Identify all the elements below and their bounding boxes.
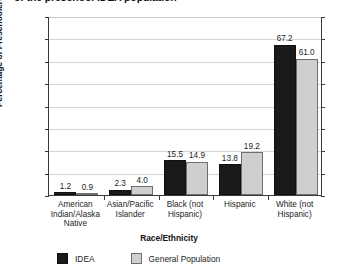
legend-swatch-idea [57,253,68,264]
y-axis-tick-mark-right [321,129,325,130]
bar [274,45,296,195]
y-axis-tick-mark [45,39,49,40]
bar-value-label: 1.2 [60,182,71,191]
bar [219,164,241,195]
y-axis-tick-mark [45,129,49,130]
y-axis-tick-mark [45,84,49,85]
y-axis-tick-mark-right [321,196,325,197]
bar [296,59,318,195]
legend-swatch-general-population [131,253,142,264]
plot-area: 01020304050607080 1.20.92.34.015.514.913… [48,17,322,196]
y-axis-tick-mark [45,107,49,108]
y-axis-tick-mark-right [321,174,325,175]
x-axis-category-label: White (notHispanic) [258,200,331,219]
y-axis-tick-mark [45,17,49,18]
bar-value-label: 61.0 [299,48,315,57]
bar-value-label: 15.5 [167,150,183,159]
gridline [49,17,321,18]
y-axis-tick-mark [45,151,49,152]
bar [241,152,263,195]
bar-value-label: 13.8 [222,154,238,163]
bar-value-label: 2.3 [114,179,125,188]
bar [54,192,76,195]
bar [186,162,208,195]
legend-label-idea: IDEA [75,254,95,264]
bar [164,160,186,195]
bar-value-label: 4.0 [136,176,147,185]
y-axis-title: Percentage of Preschoolers [0,0,4,107]
x-axis-title: Race/Ethnicity [0,233,338,243]
chart-title: of the preschool IDEA population [14,0,314,3]
legend-item-general-population: General Population [131,253,221,264]
y-axis-tick-mark-right [321,84,325,85]
y-axis-tick-mark [45,174,49,175]
bar-value-label: 19.2 [244,142,260,151]
legend: IDEA General Population [57,253,220,264]
y-axis-tick-mark [45,62,49,63]
y-axis-tick-mark-right [321,151,325,152]
y-axis-tick-mark [45,196,49,197]
legend-label-general-population: General Population [149,254,221,264]
y-axis-tick-mark-right [321,17,325,18]
bar [76,193,98,195]
legend-item-idea: IDEA [57,253,95,264]
bar-value-label: 14.9 [189,151,205,160]
bar-value-label: 67.2 [277,34,293,43]
bar-value-label: 0.9 [82,183,93,192]
y-axis-tick-mark-right [321,62,325,63]
bar [131,186,153,195]
bar [109,190,131,195]
y-axis-tick-mark-right [321,39,325,40]
y-axis-tick-mark-right [321,107,325,108]
